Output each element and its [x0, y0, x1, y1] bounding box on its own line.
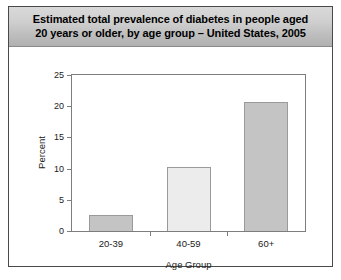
y-tick-label-10: 10	[54, 164, 64, 173]
bar-60+[interactable]	[244, 102, 288, 231]
chart-title-line-2: 20 years or older, by age group – United…	[15, 26, 326, 40]
y-tick-label-25: 25	[54, 71, 64, 80]
x-tick-mark	[227, 231, 228, 236]
x-tick-mark	[150, 231, 151, 236]
bar-group	[72, 75, 305, 231]
x-tick-label-20-39: 20-39	[99, 239, 123, 249]
y-tick-label-0: 0	[59, 227, 64, 236]
bar-slot	[227, 75, 305, 231]
bar-40-59[interactable]	[167, 167, 211, 231]
y-tick-label-5: 5	[59, 195, 64, 204]
y-tick-label-20: 20	[54, 102, 64, 111]
y-tick-mark	[67, 106, 72, 107]
x-tick-label-60+: 60+	[258, 239, 274, 249]
x-axis-title: Age Group	[71, 259, 306, 270]
chart-title-band: Estimated total prevalence of diabetes i…	[9, 7, 332, 47]
y-tick-label-15: 15	[54, 133, 64, 142]
y-tick-mark	[67, 169, 72, 170]
y-tick-mark	[67, 200, 72, 201]
y-axis-title: Percent	[35, 74, 47, 230]
chart-body: Percent 0510152025 20-3940-5960+ Age Gro…	[9, 47, 332, 266]
x-tick-label-40-59: 40-59	[176, 239, 200, 249]
y-tick-mark	[67, 231, 72, 232]
bar-slot	[150, 75, 228, 231]
y-tick-mark	[67, 137, 72, 138]
plot-area: 0510152025 20-3940-5960+	[71, 74, 306, 232]
bar-20-39[interactable]	[89, 215, 133, 231]
bar-slot	[72, 75, 150, 231]
figure-container: Estimated total prevalence of diabetes i…	[8, 6, 333, 267]
y-axis-title-text: Percent	[36, 136, 47, 169]
chart-title-line-1: Estimated total prevalence of diabetes i…	[15, 12, 326, 26]
y-tick-mark	[67, 75, 72, 76]
